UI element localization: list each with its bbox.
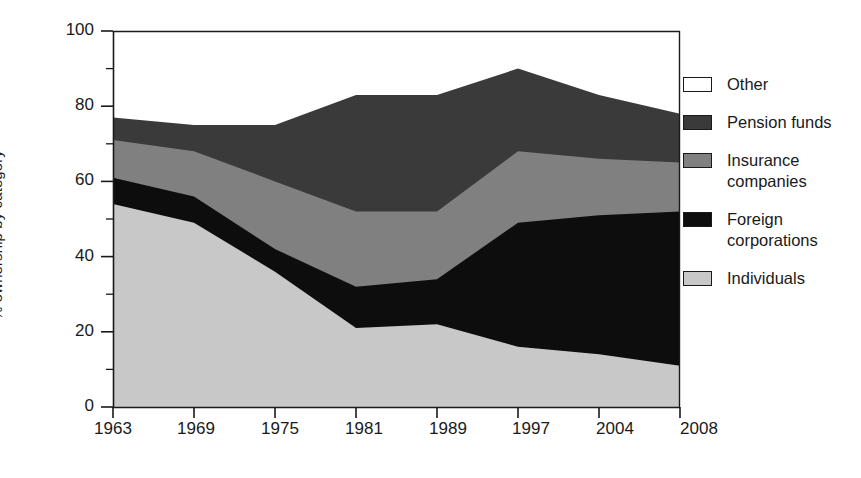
chart-legend: Other Pension funds Insurance companies …: [683, 74, 858, 306]
legend-label-foreign-corporations: Foreign corporations: [727, 209, 847, 251]
legend-swatch-other: [683, 77, 712, 92]
x-axis-ticks: [113, 407, 680, 418]
stacked-area-chart: % ownership by category 100 80 60 40 20 …: [0, 0, 861, 478]
legend-label-other: Other: [727, 74, 768, 95]
legend-item-foreign-corporations[interactable]: Foreign corporations: [683, 209, 858, 251]
legend-swatch-insurance-companies: [683, 153, 712, 168]
legend-swatch-foreign-corporations: [683, 212, 712, 227]
legend-item-other[interactable]: Other: [683, 74, 858, 95]
legend-label-insurance-companies: Insurance companies: [727, 150, 847, 192]
y-axis-ticks: [101, 31, 113, 407]
legend-item-insurance-companies[interactable]: Insurance companies: [683, 150, 858, 192]
legend-label-individuals: Individuals: [727, 268, 805, 289]
legend-swatch-individuals: [683, 271, 712, 286]
legend-item-individuals[interactable]: Individuals: [683, 268, 858, 289]
area-layers: [113, 31, 680, 407]
legend-label-pension-funds: Pension funds: [727, 112, 832, 133]
legend-swatch-pension-funds: [683, 115, 712, 130]
legend-item-pension-funds[interactable]: Pension funds: [683, 112, 858, 133]
